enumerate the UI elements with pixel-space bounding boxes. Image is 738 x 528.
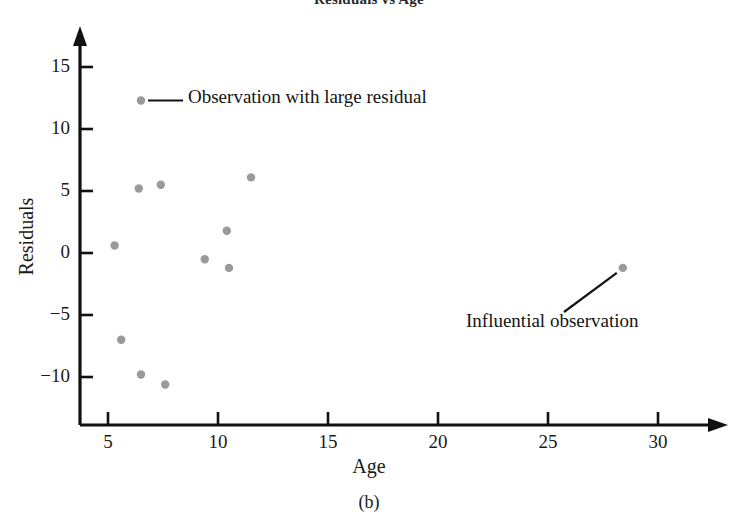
data-points (110, 96, 627, 388)
data-point (137, 370, 145, 378)
annotation-influential: Influential observation (466, 310, 639, 332)
x-tick-label: 10 (198, 431, 238, 453)
y-axis-arrowhead (73, 26, 87, 46)
annotation-large-residual: Observation with large residual (188, 86, 427, 108)
y-tick-label: 15 (24, 55, 70, 77)
x-tick-label: 15 (308, 431, 348, 453)
data-point (201, 255, 209, 263)
x-axis-title: Age (0, 455, 738, 478)
data-point (223, 226, 231, 234)
data-point (161, 380, 169, 388)
plot-canvas (0, 0, 738, 440)
x-tick-label: 30 (638, 431, 678, 453)
scatter-plot: 151050−5−10 51015202530 (0, 0, 738, 440)
data-point (137, 96, 145, 104)
data-point (110, 241, 118, 249)
x-tick-label: 5 (88, 431, 128, 453)
data-point (157, 181, 165, 189)
data-point (247, 173, 255, 181)
leader-line-influential (564, 273, 617, 312)
figure-page: Residuals vs Age 151050−5−10 51015202530… (0, 0, 738, 528)
data-point (117, 336, 125, 344)
y-tick-label: −10 (24, 365, 70, 387)
panel-caption: (b) (0, 492, 738, 513)
data-point (135, 184, 143, 192)
annotation-leader-lines (148, 100, 617, 312)
x-tick-label: 25 (528, 431, 568, 453)
y-axis-title: Residuals (15, 177, 38, 297)
y-tick-label: 10 (24, 117, 70, 139)
y-tick-label: −5 (24, 303, 70, 325)
x-axis-arrowhead (708, 418, 728, 432)
data-point (619, 264, 627, 272)
data-point (225, 264, 233, 272)
x-tick-label: 20 (418, 431, 458, 453)
